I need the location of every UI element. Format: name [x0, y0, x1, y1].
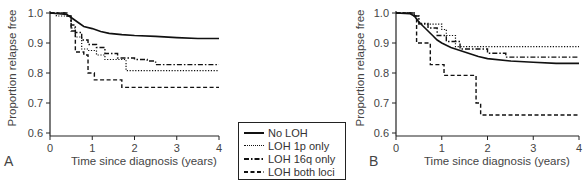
x-tick-label: 4: [576, 142, 582, 154]
panel-a-plot: 0.60.70.80.91.001234: [28, 7, 222, 154]
panel-b-label: B: [369, 153, 378, 169]
series-no-loh: [396, 13, 579, 63]
x-tick-label: 3: [530, 142, 536, 154]
panel-a-label: A: [4, 153, 13, 169]
series-loh-both-loci: [50, 13, 219, 87]
x-tick-label: 4: [216, 142, 222, 154]
y-tick-label: 0.6: [374, 127, 389, 139]
y-tick-label: 1.0: [28, 7, 43, 19]
y-tick-label: 0.8: [374, 67, 389, 79]
legend-label: No LOH: [268, 127, 308, 139]
series-loh-both-loci: [396, 13, 579, 115]
y-tick-label: 0.6: [28, 127, 43, 139]
solid-line-icon: [244, 132, 264, 134]
y-tick-label: 0.7: [374, 97, 389, 109]
legend-label: LOH both loci: [268, 166, 335, 178]
x-tick-label: 3: [174, 142, 180, 154]
panel-b-ylabel: Proportion relapse free: [354, 0, 366, 138]
dotted-line-icon: [244, 145, 264, 146]
panel-b-plot: 0.60.70.80.91.001234: [374, 7, 582, 154]
panel-a-xlabel: Time since diagnosis (years): [71, 155, 217, 167]
legend: No LOH LOH 1p only LOH 16q only LOH both…: [238, 122, 346, 180]
dashdot-line-icon: [244, 157, 264, 161]
legend-label: LOH 1p only: [268, 140, 329, 152]
y-tick-label: 0.9: [374, 37, 389, 49]
legend-label: LOH 16q only: [268, 153, 335, 165]
x-tick-label: 1: [439, 142, 445, 154]
series-loh-1p-only: [396, 13, 579, 47]
legend-item-loh-16q: LOH 16q only: [244, 152, 345, 165]
dashed-line-icon: [244, 170, 264, 174]
y-tick-label: 1.0: [374, 7, 389, 19]
y-tick-label: 0.8: [28, 67, 43, 79]
x-tick-label: 0: [47, 142, 53, 154]
x-tick-label: 0: [393, 142, 399, 154]
legend-item-no-loh: No LOH: [244, 126, 345, 139]
panel-a-ylabel: Proportion relapse free: [6, 0, 18, 138]
panel-b-xlabel: Time since diagnosis (years): [424, 155, 570, 167]
x-tick-label: 2: [484, 142, 490, 154]
x-tick-label: 2: [131, 142, 137, 154]
x-tick-label: 1: [89, 142, 95, 154]
series-loh-16q-only: [396, 13, 579, 57]
legend-item-loh-1p: LOH 1p only: [244, 139, 345, 152]
y-tick-label: 0.7: [28, 97, 43, 109]
legend-item-loh-both: LOH both loci: [244, 165, 345, 178]
y-tick-label: 0.9: [28, 37, 43, 49]
